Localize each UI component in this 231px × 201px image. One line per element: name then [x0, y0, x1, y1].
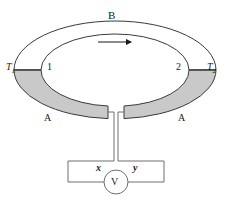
- temperature-t2-label: T2: [207, 62, 216, 75]
- conductor-a-left-arc: [14, 70, 108, 119]
- junction-2-label: 2: [176, 62, 181, 72]
- voltmeter-label: V: [111, 177, 118, 187]
- conductor-a-left-label: A: [44, 113, 51, 123]
- temperature-t1-subscript: 1: [12, 67, 16, 75]
- thermocouple-diagram: B T1 T2 1 2 A A x y V: [0, 0, 231, 201]
- diagram-canvas: [0, 0, 231, 201]
- conductor-b-upper-arc: [14, 21, 216, 70]
- lead-wire-left: [68, 112, 114, 182]
- lead-wire-right: [118, 112, 164, 182]
- terminal-y-label: y: [133, 163, 137, 173]
- junction-1-label: 1: [47, 62, 52, 72]
- temperature-t2-subscript: 2: [213, 67, 217, 75]
- conductor-b-label: B: [108, 10, 115, 21]
- conductor-a-right-label: A: [178, 113, 185, 123]
- conductor-a-right-arc: [124, 70, 216, 119]
- temperature-t1-label: T1: [6, 62, 15, 75]
- terminal-x-label: x: [96, 163, 101, 173]
